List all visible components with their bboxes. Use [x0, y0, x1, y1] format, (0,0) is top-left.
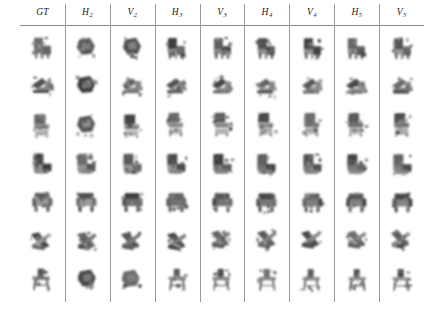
shape-render-stool — [250, 262, 283, 295]
grid-row — [20, 105, 424, 144]
grid-cell-h5-row2 — [334, 67, 379, 106]
column-header-subscript: 4 — [313, 11, 317, 18]
shape-render-slat-back-chair — [26, 108, 59, 141]
column-header-subscript: 2 — [134, 11, 138, 18]
shape-render-armchair — [205, 185, 238, 218]
grid-cell-v3-row6 — [200, 221, 245, 260]
grid-cell-gt-row7 — [20, 260, 65, 299]
shape-render-lounger — [161, 69, 194, 102]
shape-render-block-armchair — [116, 147, 149, 180]
shape-render-folding-chair — [250, 224, 283, 257]
shape-render-blob-chair — [71, 31, 104, 64]
shape-render-slat-back-chair — [205, 108, 238, 141]
grid-cell-h2-row4 — [65, 144, 110, 183]
shape-render-armchair — [71, 185, 104, 218]
shape-render-lounger — [116, 69, 149, 102]
column-header-subscript: 3 — [179, 11, 183, 18]
grid-cell-h4-row6 — [244, 221, 289, 260]
shape-render-blob-chair — [116, 31, 149, 64]
shape-render-stool — [205, 262, 238, 295]
shape-render-side-chair — [385, 31, 418, 64]
grid-cell-h2-row3 — [65, 105, 110, 144]
grid-cell-v4-row4 — [289, 144, 334, 183]
grid-cell-v4-row1 — [289, 28, 334, 67]
column-header-base: V — [217, 7, 223, 17]
grid-cell-v5-row1 — [379, 28, 424, 67]
grid-cell-h5-row7 — [334, 260, 379, 299]
grid-cell-h3-row1 — [155, 28, 200, 67]
grid-cell-v2-row1 — [110, 28, 155, 67]
grid-cell-h4-row2 — [244, 67, 289, 106]
column-header-subscript: 3 — [224, 11, 228, 18]
grid-cell-v2-row3 — [110, 105, 155, 144]
shape-render-slat-back-chair — [340, 108, 373, 141]
grid-cell-v2-row6 — [110, 221, 155, 260]
column-header-row: GTH2V2H3V3H4V4H5V5 — [20, 2, 424, 22]
shape-render-stool — [26, 262, 59, 295]
shape-render-stool — [340, 262, 373, 295]
shape-render-block-armchair — [205, 147, 238, 180]
shape-render-block-armchair — [26, 147, 59, 180]
shape-render-armchair — [250, 185, 283, 218]
shape-render-folding-chair — [205, 224, 238, 257]
column-header-subscript: 2 — [89, 11, 93, 18]
column-header-subscript: 5 — [403, 11, 407, 18]
column-header-base: GT — [36, 7, 49, 17]
grid-cell-v3-row5 — [200, 182, 245, 221]
shape-render-slat-back-chair — [250, 108, 283, 141]
grid-cell-h3-row4 — [155, 144, 200, 183]
grid-cell-v2-row4 — [110, 144, 155, 183]
result-grid: GTH2V2H3V3H4V4H5V5 — [20, 2, 424, 304]
column-header-v2: V2 — [110, 2, 155, 23]
grid-cell-v3-row3 — [200, 105, 245, 144]
shape-render-lounger — [26, 69, 59, 102]
shape-render-lounger — [340, 69, 373, 102]
shape-render-slat-back-chair — [385, 108, 418, 141]
grid-cell-v4-row6 — [289, 221, 334, 260]
grid-cell-h2-row7 — [65, 260, 110, 299]
grid-cell-h2-row1 — [65, 28, 110, 67]
grid-row — [20, 28, 424, 67]
column-header-v3: V3 — [200, 2, 245, 23]
shape-render-stool — [295, 262, 328, 295]
grid-cell-v4-row3 — [289, 105, 334, 144]
shape-render-side-chair — [250, 31, 283, 64]
grid-cell-h3-row5 — [155, 182, 200, 221]
grid-row — [20, 221, 424, 260]
shape-render-blob-chair — [71, 69, 104, 102]
grid-cell-h3-row6 — [155, 221, 200, 260]
grid-cell-v5-row5 — [379, 182, 424, 221]
grid-cell-h5-row5 — [334, 182, 379, 221]
shape-render-armchair — [26, 185, 59, 218]
column-header-v5: V5 — [379, 2, 424, 23]
shape-render-lounger — [250, 69, 283, 102]
shape-render-side-chair — [26, 31, 59, 64]
shape-render-stool — [161, 262, 194, 295]
shape-render-slat-back-chair — [116, 108, 149, 141]
shape-render-side-chair — [161, 31, 194, 64]
shape-render-folding-chair — [340, 224, 373, 257]
column-header-subscript: 5 — [359, 11, 363, 18]
grid-cell-h2-row5 — [65, 182, 110, 221]
shape-render-blob-chair — [71, 262, 104, 295]
grid-cell-h3-row2 — [155, 67, 200, 106]
shape-render-lounger — [205, 69, 238, 102]
comparison-figure: GTH2V2H3V3H4V4H5V5 — [0, 0, 438, 317]
grid-cell-v4-row5 — [289, 182, 334, 221]
grid-cell-gt-row2 — [20, 67, 65, 106]
column-header-h3: H3 — [155, 2, 200, 23]
grid-cell-h4-row7 — [244, 260, 289, 299]
column-header-base: H — [262, 7, 269, 17]
grid-cell-v2-row2 — [110, 67, 155, 106]
grid-cell-gt-row6 — [20, 221, 65, 260]
shape-render-armchair — [116, 185, 149, 218]
column-header-base: V — [127, 7, 133, 17]
grid-cell-gt-row5 — [20, 182, 65, 221]
grid-cell-h2-row6 — [65, 221, 110, 260]
shape-render-block-armchair — [340, 147, 373, 180]
grid-cell-v3-row1 — [200, 28, 245, 67]
shape-render-armchair — [295, 185, 328, 218]
grid-cell-h4-row1 — [244, 28, 289, 67]
grid-cell-h5-row6 — [334, 221, 379, 260]
grid-cell-h5-row4 — [334, 144, 379, 183]
